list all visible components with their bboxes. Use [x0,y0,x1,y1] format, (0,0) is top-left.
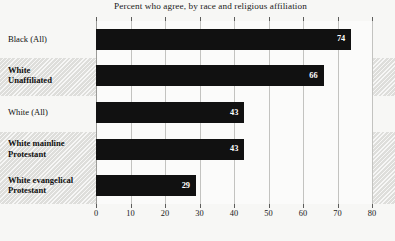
tick-mark-bottom-80 [372,204,373,208]
tick-mark-top-60 [303,17,304,21]
tick-mark-top-70 [338,17,339,21]
x-tick-label-50: 50 [257,209,281,218]
tick-mark-bottom-20 [165,204,166,208]
tick-mark-bottom-0 [96,204,97,208]
tick-mark-bottom-60 [303,204,304,208]
category-label-line2: Protestant [8,185,92,196]
category-label-line1: Black (All) [8,34,92,45]
tick-mark-top-50 [269,17,270,21]
tick-mark-top-30 [200,17,201,21]
tick-mark-bottom-70 [338,204,339,208]
category-label-line2: Protestant [8,149,92,160]
category-label-line1: White evangelical [8,175,92,186]
category-label-4: White evangelicalProtestant [8,175,92,196]
bar-value-label-0: 74 [332,34,345,43]
category-label-2: White (All) [8,107,92,118]
bar-value-label-1: 66 [305,71,318,80]
bar-3 [96,139,244,160]
x-tick-label-30: 30 [188,209,212,218]
category-label-line1: White [8,65,92,76]
tick-mark-bottom-40 [234,204,235,208]
x-tick-label-60: 60 [291,209,315,218]
x-tick-label-0: 0 [84,209,108,218]
category-label-3: White mainlineProtestant [8,138,92,159]
category-label-line2: Unaffiliated [8,75,92,86]
category-label-1: WhiteUnaffiliated [8,65,92,86]
gridline-80 [372,21,373,204]
tick-mark-bottom-50 [269,204,270,208]
x-tick-label-70: 70 [326,209,350,218]
category-label-0: Black (All) [8,34,92,45]
chart-title: Percent who agree, by race and religious… [0,1,395,11]
category-label-line1: White mainline [8,138,92,149]
bar-value-label-4: 29 [177,181,190,190]
x-tick-label-80: 80 [360,209,384,218]
bar-chart-figure: 01020304050607080 Black (All)WhiteUnaffi… [0,0,395,241]
tick-mark-top-10 [131,17,132,21]
tick-mark-bottom-10 [131,204,132,208]
tick-mark-bottom-30 [200,204,201,208]
bar-value-label-2: 43 [225,108,238,117]
tick-mark-top-80 [372,17,373,21]
category-label-line1: White (All) [8,107,92,118]
bar-value-label-3: 43 [225,144,238,153]
bar-0 [96,29,351,50]
x-tick-label-10: 10 [119,209,143,218]
tick-mark-top-40 [234,17,235,21]
x-tick-label-20: 20 [153,209,177,218]
bar-1 [96,65,324,86]
x-tick-label-40: 40 [222,209,246,218]
tick-mark-top-20 [165,17,166,21]
bar-2 [96,102,244,123]
tick-mark-top-0 [96,17,97,21]
